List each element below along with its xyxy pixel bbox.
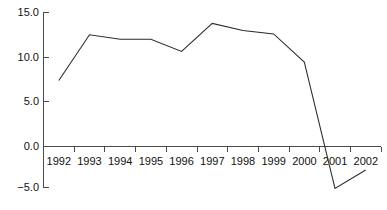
chart-plot-area: 15.0 10.0 5.0 0.0 −5.0 1992 1993 1994 <box>0 0 387 210</box>
x-tick-marks <box>44 147 382 152</box>
y-tick-label-15: 15.0 <box>18 6 39 18</box>
x-tick-label-1995: 1995 <box>139 155 163 167</box>
line-chart: 15.0 10.0 5.0 0.0 −5.0 1992 1993 1994 <box>0 0 387 210</box>
x-tick-label-1993: 1993 <box>77 155 101 167</box>
x-tick-label-2002: 2002 <box>354 155 378 167</box>
x-tick-label-1994: 1994 <box>108 155 132 167</box>
y-tick-label-neg5: −5.0 <box>17 181 39 193</box>
y-tick-label-0: 0.0 <box>24 140 39 152</box>
y-axis-tick-labels: 15.0 10.0 5.0 0.0 −5.0 <box>17 6 39 193</box>
y-tick-label-10: 10.0 <box>18 51 39 63</box>
x-tick-label-1998: 1998 <box>231 155 255 167</box>
x-tick-label-1997: 1997 <box>200 155 224 167</box>
x-tick-label-2000: 2000 <box>292 155 316 167</box>
y-tick-label-5: 5.0 <box>24 95 39 107</box>
x-tick-label-1996: 1996 <box>169 155 193 167</box>
x-tick-label-1999: 1999 <box>261 155 285 167</box>
x-tick-label-2001: 2001 <box>323 155 347 167</box>
x-tick-label-1992: 1992 <box>47 155 71 167</box>
